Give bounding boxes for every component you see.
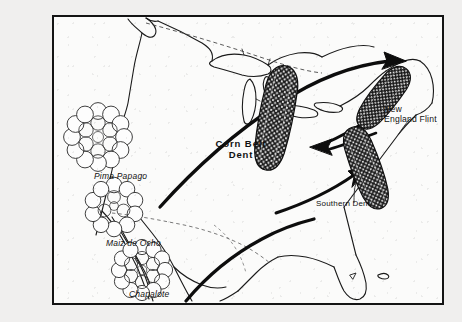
pima-papago-rosette bbox=[64, 103, 133, 172]
pima-papago-label: Pima Papago bbox=[94, 171, 147, 181]
map-frame: Pima Papago Maiz de Ocho Chapalote Corn … bbox=[52, 15, 444, 305]
figure-canvas: Pima Papago Maiz de Ocho Chapalote Corn … bbox=[0, 0, 462, 322]
arrow-mexico-north bbox=[186, 219, 314, 301]
chapalote-label: Chapalote bbox=[129, 289, 170, 299]
maiz-de-ocho-rosette bbox=[85, 177, 143, 237]
southern-dent-label: Southern Dent bbox=[316, 199, 370, 208]
dashed-state-line bbox=[214, 225, 246, 273]
maiz-de-ocho-label: Maiz de Ocho bbox=[106, 238, 161, 248]
map-illustration bbox=[54, 17, 442, 303]
corn-belt-dent-label-line1: Corn Belt bbox=[206, 138, 276, 149]
new-england-flint-label-line1: New bbox=[384, 104, 437, 114]
dashed-border-line bbox=[146, 23, 322, 73]
corn-belt-dent-label-line2: Dent bbox=[206, 149, 276, 160]
new-england-flint-label-line2: England Flint bbox=[384, 114, 437, 124]
